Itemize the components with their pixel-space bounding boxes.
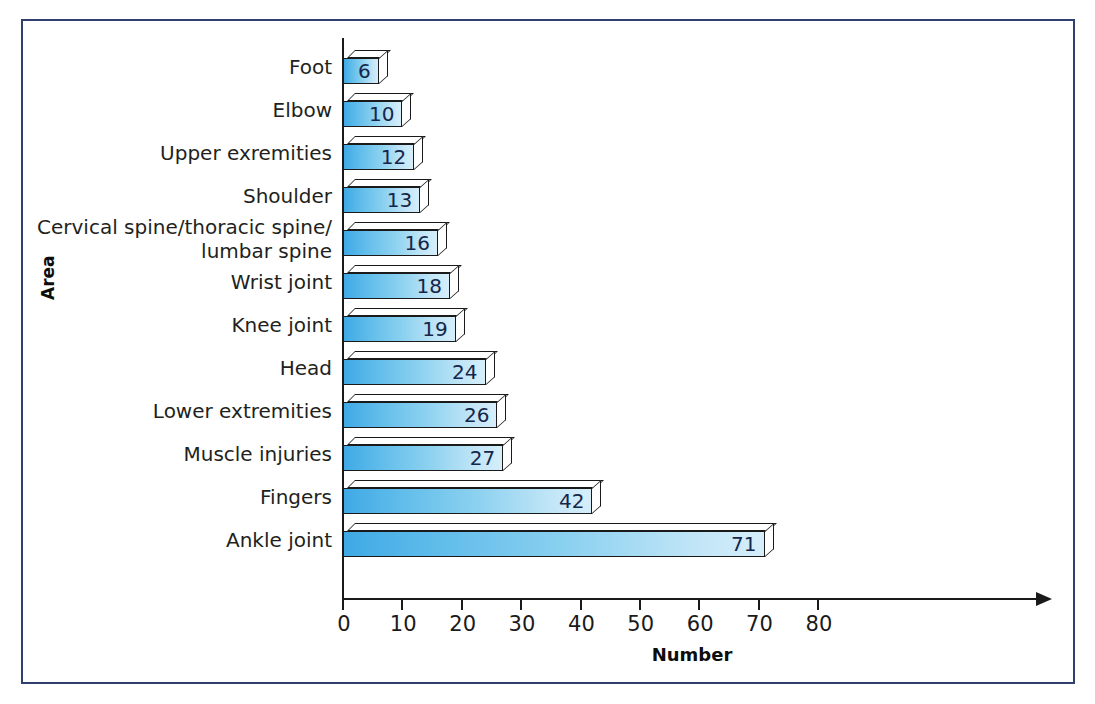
x-axis-title: Number	[342, 644, 1042, 665]
x-tick-20	[461, 600, 463, 610]
bar-front-face: 13	[343, 187, 420, 213]
bar-value-label: 10	[369, 104, 394, 124]
bar-side-face	[420, 179, 429, 213]
bar-value-label: 24	[452, 362, 477, 382]
bar[interactable]: 18	[343, 265, 450, 299]
bar-value-label: 16	[405, 233, 430, 253]
bar-value-label: 71	[731, 534, 756, 554]
x-tick-label-30: 30	[492, 612, 552, 636]
x-tick-label-40: 40	[552, 612, 612, 636]
bar-top-face	[347, 308, 468, 316]
category-label: Muscle injuries	[0, 442, 332, 466]
bar-value-label: 6	[358, 61, 371, 81]
bar[interactable]: 71	[343, 523, 765, 557]
bar-top-face	[347, 394, 509, 402]
bar-row[interactable]: Wrist joint18	[0, 256, 1095, 299]
x-tick-40	[580, 600, 582, 610]
category-label: Lower extremities	[0, 399, 332, 423]
bar-value-label: 13	[387, 190, 412, 210]
bar-side-face	[592, 480, 601, 514]
bar[interactable]: 24	[343, 351, 486, 385]
x-axis-arrow-icon	[1036, 592, 1052, 606]
bar-row[interactable]: Shoulder13	[0, 170, 1095, 213]
bar-row[interactable]: Cervical spine/thoracic spine/ lumbar sp…	[0, 213, 1095, 256]
bar-value-label: 26	[464, 405, 489, 425]
bar[interactable]: 42	[343, 480, 592, 514]
bar-row[interactable]: Upper exremities12	[0, 127, 1095, 170]
bar-front-face: 42	[343, 488, 592, 514]
bar-top-face	[347, 523, 777, 531]
bar[interactable]: 27	[343, 437, 503, 471]
x-tick-label-10: 10	[373, 612, 433, 636]
category-label: Foot	[0, 55, 332, 79]
bar-value-label: 12	[381, 147, 406, 167]
category-label: Knee joint	[0, 313, 332, 337]
bar-value-label: 19	[422, 319, 447, 339]
bar-top-face	[347, 351, 498, 359]
bar-side-face	[497, 394, 506, 428]
bar-top-face	[347, 480, 604, 488]
bar-side-face	[402, 93, 411, 127]
bar-side-face	[503, 437, 512, 471]
x-axis-line	[342, 598, 1042, 600]
bar-row[interactable]: Foot6	[0, 41, 1095, 84]
bar[interactable]: 26	[343, 394, 497, 428]
bar-top-face	[347, 437, 515, 445]
bar-front-face: 24	[343, 359, 486, 385]
x-tick-60	[698, 600, 700, 610]
bar-row[interactable]: Elbow10	[0, 84, 1095, 127]
category-label: Shoulder	[0, 184, 332, 208]
y-axis-title: Area	[38, 255, 58, 300]
bar-front-face: 71	[343, 531, 765, 557]
x-tick-80	[817, 600, 819, 610]
x-tick-label-0: 0	[314, 612, 374, 636]
x-tick-label-60: 60	[670, 612, 730, 636]
bar-row[interactable]: Fingers42	[0, 471, 1095, 514]
bar-front-face: 16	[343, 230, 438, 256]
bar-row[interactable]: Lower extremities26	[0, 385, 1095, 428]
category-label: Upper exremities	[0, 141, 332, 165]
x-tick-10	[401, 600, 403, 610]
bar-row[interactable]: Head24	[0, 342, 1095, 385]
bar[interactable]: 6	[343, 50, 379, 84]
bar-side-face	[438, 222, 447, 256]
bar-top-face	[347, 265, 462, 273]
bar[interactable]: 16	[343, 222, 438, 256]
bar-value-label: 18	[416, 276, 441, 296]
category-label: Ankle joint	[0, 528, 332, 552]
x-tick-label-20: 20	[433, 612, 493, 636]
x-tick-70	[758, 600, 760, 610]
bar[interactable]: 10	[343, 93, 402, 127]
plot-area: Foot6Elbow10Upper exremities12Shoulder13…	[0, 0, 1095, 704]
category-label: Fingers	[0, 485, 332, 509]
bar[interactable]: 19	[343, 308, 456, 342]
bar-value-label: 42	[559, 491, 584, 511]
bar-top-face	[347, 222, 450, 230]
x-tick-label-70: 70	[730, 612, 790, 636]
bar-row[interactable]: Muscle injuries27	[0, 428, 1095, 471]
x-tick-label-80: 80	[789, 612, 849, 636]
bar[interactable]: 13	[343, 179, 420, 213]
x-tick-label-50: 50	[611, 612, 671, 636]
bar-front-face: 10	[343, 101, 402, 127]
bar-row[interactable]: Ankle joint71	[0, 514, 1095, 557]
bar-value-label: 27	[470, 448, 495, 468]
chart-page: Foot6Elbow10Upper exremities12Shoulder13…	[0, 0, 1095, 704]
bar-front-face: 18	[343, 273, 450, 299]
category-label: Head	[0, 356, 332, 380]
bar-front-face: 26	[343, 402, 497, 428]
bar-front-face: 27	[343, 445, 503, 471]
bar-row[interactable]: Knee joint19	[0, 299, 1095, 342]
x-tick-50	[639, 600, 641, 610]
bar-front-face: 19	[343, 316, 456, 342]
bar-side-face	[414, 136, 423, 170]
x-tick-0	[342, 600, 344, 610]
bar-front-face: 12	[343, 144, 414, 170]
bar-front-face: 6	[343, 58, 379, 84]
bar[interactable]: 12	[343, 136, 414, 170]
x-tick-30	[520, 600, 522, 610]
category-label: Elbow	[0, 98, 332, 122]
